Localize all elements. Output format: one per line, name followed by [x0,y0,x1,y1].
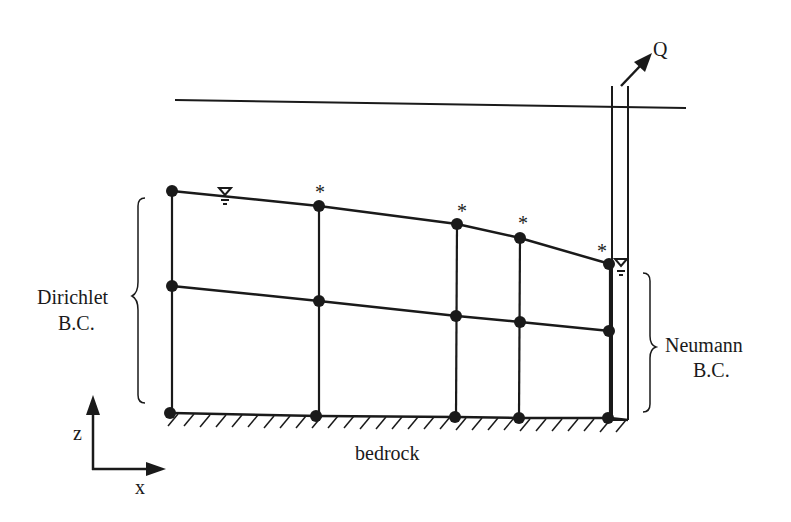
mesh-top-line-water-table [172,191,610,264]
neumann-brace [643,273,656,412]
x-axis-label: x [135,476,145,498]
asterisk-marker: * [457,200,467,222]
node-icon [166,280,178,292]
dirichlet-label-line1: Dirichlet [37,286,109,308]
node-icon [166,185,178,197]
node-icon [513,412,525,424]
x-axis-arrow-icon [146,462,166,476]
finite-element-aquifer-diagram: Q * * * * [0,0,791,522]
node-icon [449,411,461,423]
z-axis-arrow-icon [86,395,100,415]
neumann-label-line1: Neumann [665,334,743,356]
node-icon [450,310,462,322]
node-icon [310,410,322,422]
asterisk-marker: * [597,240,607,262]
bedrock-label: bedrock [355,442,419,464]
node-icon [313,295,325,307]
node-icon [514,316,526,328]
mesh-vertical-lines [172,191,610,418]
ground-surface-line [175,100,686,108]
neumann-label-line2: B.C. [693,359,730,381]
dirichlet-brace [132,198,145,403]
node-icon [164,407,176,419]
coordinate-axes [86,395,166,476]
mesh-middle-line [172,286,610,331]
pumping-rate-label: Q [653,38,668,60]
node-icon [603,325,615,337]
pumping-well [612,86,628,420]
asterisk-marker: * [315,181,325,203]
z-axis-label: z [73,422,82,444]
asterisk-marker: * [518,212,528,234]
dirichlet-label-line2: B.C. [58,312,95,334]
water-table-icon [615,259,627,275]
mesh-nodes [164,185,615,424]
pumping-arrow-icon [621,53,652,86]
